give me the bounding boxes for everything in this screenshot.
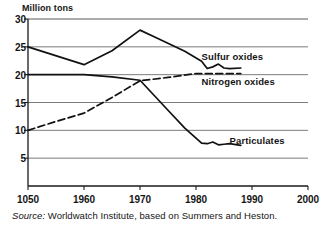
source-prefix: Source: [12, 210, 45, 221]
source-text: Worldwatch Institute, based on Summers a… [48, 210, 277, 221]
series-label-sulfur-oxides: Sulfur oxides [202, 51, 263, 62]
x-axis-tick-marks [24, 19, 308, 190]
y-tick-label: 5 [0, 153, 26, 164]
series-line-sulfur-oxides [28, 30, 241, 68]
series-label-nitrogen-oxides: Nitrogen oxides [202, 76, 275, 87]
data-series-layer [28, 30, 241, 145]
chart-figure: Million tons 30252015105 105019601970198… [0, 0, 324, 229]
series-label-particulates: Particulates [230, 135, 285, 146]
y-tick-label: 30 [0, 14, 26, 25]
y-tick-label: 25 [0, 41, 26, 52]
y-tick-label: 20 [0, 69, 26, 80]
x-tick-label: 1970 [120, 194, 160, 205]
y-tick-label: 15 [0, 97, 26, 108]
x-tick-label: 2000 [288, 194, 324, 205]
x-tick-label: 1050 [8, 194, 48, 205]
source-caption: Source: Worldwatch Institute, based on S… [12, 210, 277, 221]
line-chart-plot [0, 0, 324, 229]
y-tick-label: 10 [0, 125, 26, 136]
x-tick-label: 1980 [176, 194, 216, 205]
x-tick-label: 1960 [64, 194, 104, 205]
x-tick-label: 1990 [232, 194, 272, 205]
